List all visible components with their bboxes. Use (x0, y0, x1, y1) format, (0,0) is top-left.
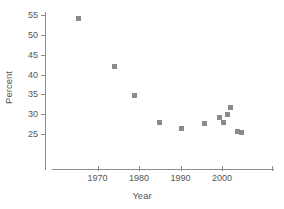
data-point (132, 93, 137, 98)
scatter-chart: 25303540455055 1970198019902000 Percent … (0, 0, 284, 209)
x-axis-tick-label: 1990 (161, 174, 201, 183)
x-axis-title: Year (0, 190, 284, 201)
x-axis-tick (272, 166, 273, 171)
y-axis-tick (41, 35, 46, 36)
data-point (217, 115, 222, 120)
y-axis-tick (41, 114, 46, 115)
y-axis-tick (41, 94, 46, 95)
y-axis-tick-label: 30 (14, 110, 38, 119)
x-axis-tick-label: 2000 (202, 174, 242, 183)
plot-area: 25303540455055 1970198019902000 Percent … (0, 0, 284, 209)
x-axis-tick-label: 1980 (119, 174, 159, 183)
y-axis-tick-label: 55 (14, 11, 38, 20)
data-point (228, 105, 233, 110)
y-axis-tick (41, 15, 46, 16)
y-axis-tick (41, 55, 46, 56)
data-point (239, 130, 244, 135)
x-axis-tick (222, 166, 223, 171)
y-axis-tick (41, 134, 46, 135)
y-axis-tick (41, 75, 46, 76)
y-axis-tick-label: 25 (14, 130, 38, 139)
x-axis-tick-label: 1970 (78, 174, 118, 183)
y-axis-tick-label: 50 (14, 31, 38, 40)
x-axis-tick (139, 166, 140, 171)
y-axis-tick-label: 45 (14, 51, 38, 60)
x-axis-line (52, 169, 274, 170)
x-axis-tick (98, 166, 99, 171)
data-point (221, 120, 226, 125)
data-point (179, 126, 184, 131)
x-axis-tick (181, 166, 182, 171)
data-point (225, 112, 230, 117)
data-point (76, 16, 81, 21)
data-point (202, 121, 207, 126)
y-axis-tick-label: 35 (14, 90, 38, 99)
data-point (112, 64, 117, 69)
y-axis-tick-label: 40 (14, 71, 38, 80)
data-point (157, 120, 162, 125)
y-axis-title: Percent (3, 63, 14, 113)
